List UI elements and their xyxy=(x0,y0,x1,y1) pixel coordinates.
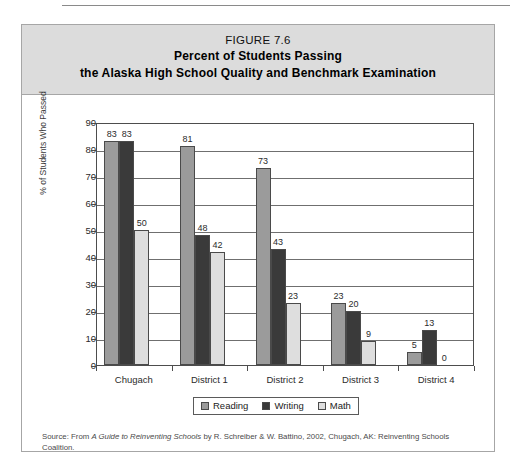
legend-swatch-math-icon xyxy=(318,402,326,410)
legend-swatch-writing-icon xyxy=(262,402,270,410)
bar-value-label: 43 xyxy=(265,237,292,247)
source-note: Source: From A Guide to Reinventing Scho… xyxy=(42,431,476,453)
bar-group: 838350 xyxy=(104,124,149,365)
bar-value-label: 81 xyxy=(174,134,201,144)
figure-page: FIGURE 7.6 Percent of Students Passing t… xyxy=(0,0,518,474)
bar-writing-district-1[interactable] xyxy=(195,235,210,365)
bar-group: 5130 xyxy=(407,124,452,365)
bar-group: 23209 xyxy=(331,124,376,365)
x-tick-mark xyxy=(96,366,97,371)
bar-reading-district-4[interactable] xyxy=(407,352,422,366)
bar-writing-district-2[interactable] xyxy=(271,249,286,365)
bar-value-label: 0 xyxy=(431,353,458,363)
legend-swatch-reading-icon xyxy=(201,402,209,410)
legend-item-reading[interactable]: Reading xyxy=(201,400,248,411)
x-axis-label-district-3: District 3 xyxy=(323,374,399,385)
bar-value-label: 42 xyxy=(204,240,231,250)
figure-container: FIGURE 7.6 Percent of Students Passing t… xyxy=(21,24,495,452)
bar-reading-district-1[interactable] xyxy=(180,146,195,365)
x-axis-labels: ChugachDistrict 1District 2District 3Dis… xyxy=(96,374,474,388)
bar-value-label: 9 xyxy=(355,329,382,339)
legend-item-math[interactable]: Math xyxy=(318,400,351,411)
y-axis-label: % of Students Who Passed xyxy=(38,73,48,213)
x-axis-label-district-2: District 2 xyxy=(247,374,323,385)
bar-value-label: 73 xyxy=(250,156,277,166)
figure-number: FIGURE 7.6 xyxy=(22,32,494,48)
bars-layer: 838350814842734323232095130 xyxy=(97,124,473,365)
bar-math-district-1[interactable] xyxy=(210,252,225,365)
legend-label: Reading xyxy=(213,400,248,411)
x-axis-label-chugach: Chugach xyxy=(96,374,172,385)
bar-value-label: 20 xyxy=(340,299,367,309)
chart-area: % of Students Who Passed 010203040506070… xyxy=(22,95,494,452)
legend-item-writing[interactable]: Writing xyxy=(262,400,303,411)
bar-value-label: 83 xyxy=(113,129,140,139)
bar-group: 814842 xyxy=(180,124,225,365)
bar-reading-chugach[interactable] xyxy=(104,141,119,365)
y-axis: 0102030405060708090 xyxy=(62,123,96,366)
bar-writing-chugach[interactable] xyxy=(119,141,134,365)
x-axis-label-district-4: District 4 xyxy=(398,374,474,385)
bar-group: 734323 xyxy=(256,124,301,365)
legend-label: Math xyxy=(330,400,351,411)
bar-math-chugach[interactable] xyxy=(134,230,149,365)
bar-math-district-2[interactable] xyxy=(286,303,301,365)
source-prefix: Source: From xyxy=(42,432,91,441)
bar-reading-district-3[interactable] xyxy=(331,303,346,365)
plot-area: 838350814842734323232095130 xyxy=(96,123,474,366)
x-tick-mark xyxy=(172,366,173,371)
bar-math-district-3[interactable] xyxy=(361,341,376,365)
x-tick-mark xyxy=(323,366,324,371)
bar-value-label: 23 xyxy=(280,291,307,301)
figure-title-line-1: Percent of Students Passing xyxy=(22,48,494,65)
bar-value-label: 48 xyxy=(189,223,216,233)
bar-reading-district-2[interactable] xyxy=(256,168,271,365)
page-top-rule xyxy=(62,5,510,6)
figure-title-line-2: the Alaska High School Quality and Bench… xyxy=(22,65,494,82)
x-tick-mark xyxy=(247,366,248,371)
x-axis-ticks xyxy=(96,366,474,372)
x-axis-label-district-1: District 1 xyxy=(172,374,248,385)
plot-wrapper: 838350814842734323232095130 xyxy=(96,123,474,366)
legend-label: Writing xyxy=(274,400,303,411)
x-tick-mark xyxy=(474,366,475,371)
bar-value-label: 50 xyxy=(128,218,155,228)
figure-title-band: FIGURE 7.6 Percent of Students Passing t… xyxy=(22,25,494,95)
x-tick-mark xyxy=(398,366,399,371)
source-title: A Guide to Reinventing Schools xyxy=(91,432,201,441)
chart-legend: ReadingWritingMath xyxy=(193,397,359,415)
bar-value-label: 13 xyxy=(416,318,443,328)
